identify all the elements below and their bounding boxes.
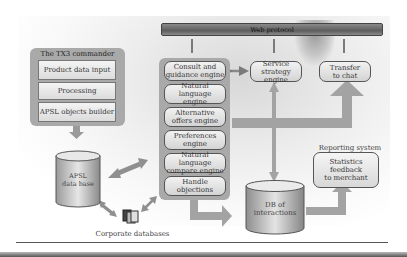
engines-to-db-arrow (190, 200, 232, 227)
alternative-offers-engine: Alternativeoffers engine (164, 107, 226, 127)
natural-language-engine: Natural languageengine (164, 84, 226, 104)
bottom-dark-band (0, 252, 407, 257)
apsl-database: APSL data base (55, 150, 101, 208)
transfer-to-chat: Transferto chat (319, 61, 371, 82)
natural-language-compare-engine: Natural languagecompare engine (164, 153, 226, 173)
statistics-feedback-box: Statistics feedback to merchant (313, 152, 379, 188)
interactions-database: DB of interactions (245, 180, 305, 235)
processing-box: Processing (38, 82, 116, 100)
corporate-databases-label: Corporate databases (95, 230, 170, 238)
service-strategy-engine: Service strategyengine (250, 61, 302, 82)
web-to-engines-arrow (192, 39, 344, 53)
divider-line (16, 242, 388, 243)
tx3-commander-panel: The TX3 commander Product data input Pro… (30, 48, 125, 126)
service-db-arrow (269, 82, 279, 182)
apsl-corporate-arrow (102, 205, 112, 213)
consult-guidance-engine: Consult andguidance engine (164, 61, 226, 81)
corporate-databases-icon (122, 208, 140, 224)
preferences-engine: Preferencesengine (164, 130, 226, 150)
engines-panel: Consult andguidance engine Natural langu… (159, 58, 230, 200)
corporate-engines-arrow (145, 200, 153, 208)
handle-objections: Handleobjections (164, 176, 226, 196)
apsl-objects-builder-box: APSL objects builder (38, 102, 116, 122)
apsl-engines-arrow (108, 158, 148, 178)
engines-to-transfer-arrow (232, 80, 364, 128)
reporting-system-title: Reporting system (310, 144, 390, 152)
commander-title: The TX3 commander (30, 50, 125, 58)
product-data-input-box: Product data input (38, 60, 116, 80)
commander-to-apsl-arrow (69, 125, 84, 139)
